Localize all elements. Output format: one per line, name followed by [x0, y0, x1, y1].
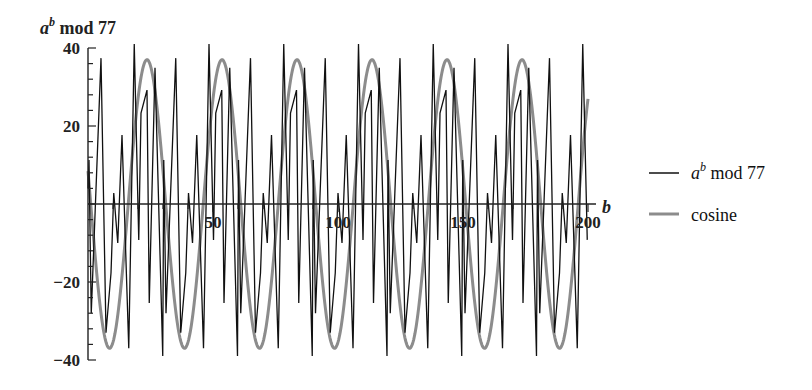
legend: ab mod 77 cosine: [649, 160, 765, 225]
legend-label-cosine: cosine: [691, 205, 737, 225]
x-axis-title: b: [602, 197, 611, 217]
y-tick-label: −40: [53, 351, 80, 370]
legend-label-mod: ab mod 77: [691, 160, 765, 183]
y-axis-title: ab mod 77: [40, 15, 116, 38]
mod-line: [88, 44, 587, 356]
y-tick-label: 40: [63, 39, 80, 58]
chart: −40−20204050100150200 ab mod 77 b ab mod…: [0, 0, 812, 390]
legend-item-mod: ab mod 77: [649, 160, 765, 183]
x-tick-label: 50: [205, 213, 222, 232]
plot-area: [88, 44, 588, 356]
x-tick-label: 200: [575, 213, 601, 232]
legend-item-cosine: cosine: [649, 205, 737, 225]
x-tick-label: 150: [450, 213, 476, 232]
y-tick-label: −20: [53, 273, 80, 292]
y-tick-label: 20: [63, 117, 80, 136]
x-tick-label: 100: [325, 213, 351, 232]
